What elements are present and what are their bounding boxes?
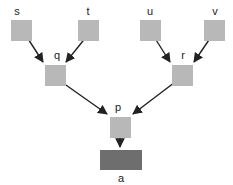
node-label-t: t	[86, 5, 89, 17]
node-r: r	[172, 49, 193, 86]
node-label-s: s	[14, 5, 20, 17]
node-label-u: u	[147, 5, 153, 17]
node-v: v	[204, 5, 225, 41]
tree-diagram: stuvqrpa	[0, 0, 233, 185]
node-box-a	[100, 150, 142, 170]
node-u: u	[140, 5, 161, 41]
node-s: s	[11, 5, 32, 41]
node-label-q: q	[54, 49, 60, 61]
node-a: a	[100, 150, 142, 184]
nodes: stuvqrpa	[11, 5, 225, 184]
node-label-v: v	[212, 5, 218, 17]
node-t: t	[78, 5, 99, 41]
node-box-t	[78, 20, 99, 41]
node-box-u	[140, 20, 161, 41]
node-box-s	[11, 20, 32, 41]
node-box-p	[110, 117, 131, 138]
node-q: q	[45, 49, 66, 86]
node-label-a: a	[118, 172, 125, 184]
node-box-q	[45, 65, 66, 86]
node-label-r: r	[181, 49, 185, 61]
node-label-p: p	[115, 101, 121, 113]
node-box-r	[172, 65, 193, 86]
node-p: p	[110, 101, 131, 138]
node-box-v	[204, 20, 225, 41]
